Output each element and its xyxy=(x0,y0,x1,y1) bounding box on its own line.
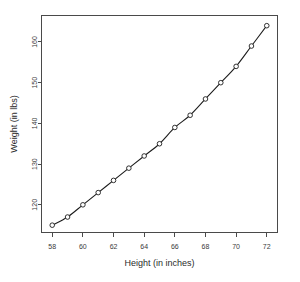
data-point-61-123 xyxy=(96,190,101,195)
plot-canvas: 120130140150160 5860626466687072 Height … xyxy=(0,0,300,282)
scatter-plot-figure: 120130140150160 5860626466687072 Height … xyxy=(0,0,300,282)
data-points xyxy=(50,23,269,227)
y-tick-label-150: 150 xyxy=(31,77,38,89)
data-point-70-154 xyxy=(234,64,239,69)
data-point-62-126 xyxy=(111,178,116,183)
x-tick-label-60: 60 xyxy=(79,243,87,250)
x-tick-label-64: 64 xyxy=(140,243,148,250)
x-tick-label-72: 72 xyxy=(263,243,271,250)
x-tick-label-66: 66 xyxy=(171,243,179,250)
data-point-58-115 xyxy=(50,223,55,228)
data-point-69-150 xyxy=(219,80,224,85)
y-axis: 120130140150160 xyxy=(31,36,42,211)
data-point-72-164 xyxy=(264,23,269,28)
data-point-59-117 xyxy=(65,215,70,220)
data-point-71-159 xyxy=(249,44,254,49)
y-axis-title: Weight (in lbs) xyxy=(9,95,19,152)
x-axis: 5860626466687072 xyxy=(48,233,270,251)
data-point-64-132 xyxy=(142,154,147,159)
data-point-60-120 xyxy=(81,203,86,208)
data-point-65-135 xyxy=(157,141,162,146)
y-tick-label-140: 140 xyxy=(31,117,38,129)
y-tick-label-130: 130 xyxy=(31,158,38,170)
data-line xyxy=(52,26,267,225)
x-tick-label-62: 62 xyxy=(110,243,118,250)
data-point-63-129 xyxy=(127,166,132,171)
x-tick-label-70: 70 xyxy=(232,243,240,250)
x-tick-label-58: 58 xyxy=(48,243,56,250)
x-tick-label-68: 68 xyxy=(202,243,210,250)
data-point-66-139 xyxy=(173,125,178,130)
x-axis-title: Height (in inches) xyxy=(124,258,194,268)
data-point-67-142 xyxy=(188,113,193,118)
y-tick-label-160: 160 xyxy=(31,36,38,48)
data-point-68-146 xyxy=(203,97,208,102)
trend-line xyxy=(52,26,267,225)
plot-frame xyxy=(42,16,278,233)
y-tick-label-120: 120 xyxy=(31,199,38,211)
plot-box xyxy=(42,16,278,233)
